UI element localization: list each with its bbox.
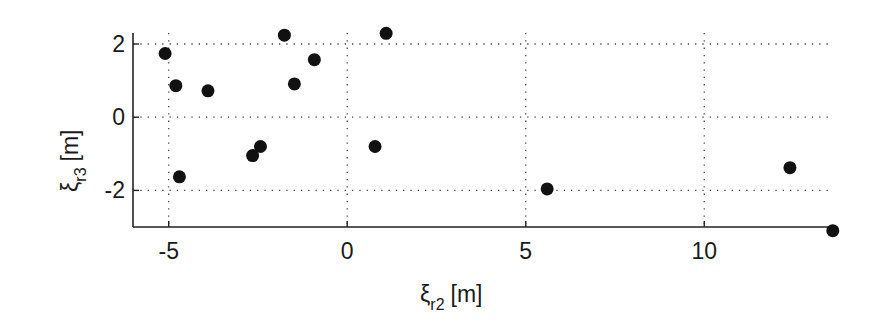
- data-points: [159, 27, 840, 237]
- y-axis-subscript: r3: [72, 167, 89, 181]
- data-point-marker: [169, 79, 182, 92]
- y-axis-label: ξr3[m]: [57, 130, 89, 193]
- data-point-marker: [380, 27, 393, 40]
- x-axis-label: ξr2[m]: [420, 281, 483, 313]
- x-tick-label: 0: [341, 238, 354, 264]
- data-point-marker: [173, 170, 186, 183]
- y-axis-unit: [m]: [57, 130, 83, 162]
- y-axis-symbol: ξ: [57, 182, 83, 192]
- y-tick-label: -2: [105, 177, 125, 203]
- data-point-marker: [783, 161, 796, 174]
- x-axis-subscript: r2: [430, 296, 444, 313]
- axes: [133, 33, 831, 227]
- data-point-marker: [541, 182, 554, 195]
- data-point-marker: [308, 53, 321, 66]
- data-point-marker: [826, 224, 839, 237]
- scatter-chart: -50510-202 ξr2[m] ξr3[m]: [0, 0, 879, 331]
- x-axis-unit: [m]: [451, 281, 483, 307]
- data-point-marker: [254, 140, 267, 153]
- data-point-marker: [159, 47, 172, 60]
- grid-lines: [133, 33, 831, 227]
- data-point-marker: [288, 77, 301, 90]
- x-axis-symbol: ξ: [420, 281, 430, 307]
- data-point-marker: [201, 84, 214, 97]
- y-tick-label: 2: [112, 31, 125, 57]
- y-tick-label: 0: [112, 104, 125, 130]
- tick-labels: -50510-202: [105, 31, 718, 264]
- data-point-marker: [369, 140, 382, 153]
- x-tick-label: 5: [519, 238, 532, 264]
- data-point-marker: [278, 29, 291, 42]
- x-tick-label: 10: [691, 238, 717, 264]
- x-tick-label: -5: [158, 238, 178, 264]
